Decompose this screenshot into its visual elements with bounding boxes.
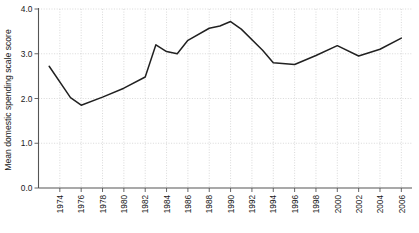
x-tick-label: 2000 [334, 195, 343, 214]
x-tick-label: 2004 [376, 195, 385, 214]
x-tick-label: 1998 [312, 195, 321, 214]
x-tick-label: 1976 [77, 195, 86, 214]
x-tick-label: 1992 [248, 195, 257, 214]
y-tick-label: 2.0 [21, 94, 33, 104]
x-tick-label: 2002 [355, 195, 364, 214]
y-tick-label: 3.0 [21, 49, 33, 59]
y-tick-label: 1.0 [21, 138, 33, 148]
x-tick-label: 1974 [56, 195, 65, 214]
x-tick-label: 1982 [141, 195, 150, 214]
x-tick-label: 1980 [120, 195, 129, 214]
x-tick-label: 1978 [99, 195, 108, 214]
x-tick-label: 1986 [184, 195, 193, 214]
data-series-line [49, 22, 401, 106]
x-tick-label: 1988 [205, 195, 214, 214]
x-tick-label: 1994 [269, 195, 278, 214]
y-tick-label: 0.0 [21, 183, 33, 193]
line-chart: 0.01.02.03.04.01974197619781980198219841… [0, 0, 419, 233]
chart-figure: 0.01.02.03.04.01974197619781980198219841… [0, 0, 419, 233]
x-tick-label: 1984 [163, 195, 172, 214]
x-tick-label: 1996 [291, 195, 300, 214]
y-axis-title: Mean domestic spending scale score [3, 29, 13, 171]
x-tick-label: 2006 [398, 195, 407, 214]
y-tick-label: 4.0 [21, 4, 33, 14]
x-tick-label: 1990 [227, 195, 236, 214]
